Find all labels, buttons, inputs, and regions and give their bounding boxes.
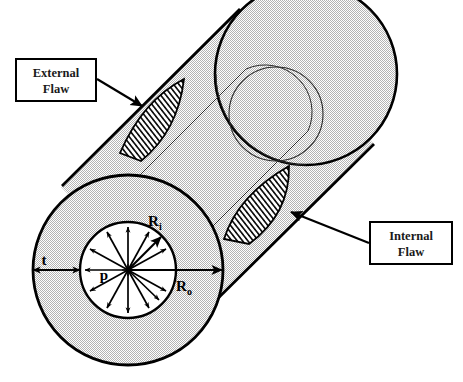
label-p: p (100, 267, 108, 283)
label-Ri-subscript: i (159, 221, 162, 232)
label-Ro-main: R (176, 278, 187, 294)
external-flaw-label-line1: External (33, 66, 80, 80)
internal-flaw-callout[interactable]: Internal Flaw (370, 222, 452, 264)
label-Ro-subscript: o (187, 286, 192, 297)
external-flaw-leader-line (97, 79, 142, 106)
label-Ri-main: R (148, 213, 159, 229)
external-flaw-callout[interactable]: External Flaw (16, 59, 96, 101)
internal-flaw-label-line1: Internal (389, 229, 433, 243)
figure-root: External Flaw Internal Flaw t p R i R o (0, 0, 463, 382)
internal-flaw-label-line2: Flaw (398, 245, 424, 259)
external-flaw-label-line2: Flaw (43, 82, 69, 96)
pipe-flaw-diagram: External Flaw Internal Flaw t p R i R o (0, 0, 463, 382)
internal-flaw-leader-line (291, 212, 369, 243)
label-t: t (42, 252, 47, 268)
